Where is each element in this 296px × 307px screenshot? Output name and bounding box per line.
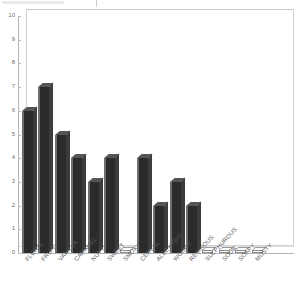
y-axis-tick-label: 8 (0, 59, 15, 66)
bar[interactable] (22, 111, 33, 253)
y-axis-tick-label: 4 (0, 154, 15, 161)
bar-side-face (99, 177, 103, 253)
bar-side-face (181, 177, 185, 253)
bar-group[interactable] (104, 158, 119, 253)
bar-group[interactable] (22, 111, 37, 253)
y-axis-tick-label: 3 (0, 178, 15, 185)
bar-side-face (148, 153, 152, 253)
bar[interactable] (137, 158, 148, 253)
y-axis-tick-label: 2 (0, 202, 15, 209)
bar-side-face (33, 106, 37, 253)
bar[interactable] (71, 158, 82, 253)
y-axis-tick-label: 9 (0, 36, 15, 43)
bar-group[interactable] (137, 158, 152, 253)
y-axis-tick-label: 10 (0, 12, 15, 19)
y-axis-tick-label: 5 (0, 131, 15, 138)
bar-group[interactable] (38, 87, 53, 253)
bar[interactable] (55, 135, 66, 254)
bar-side-face (49, 82, 53, 253)
bar-chart: 012345678910 FLORALFRUITYVANILLACARAMELN… (0, 0, 296, 307)
bar-side-face (66, 130, 70, 253)
y-axis-tick-label: 0 (0, 249, 15, 256)
bar-side-face (115, 153, 119, 253)
y-axis-tick-label: 1 (0, 225, 15, 232)
y-axis-tick-label: 7 (0, 83, 15, 90)
bar[interactable] (38, 87, 49, 253)
bar-group[interactable] (55, 135, 70, 254)
bar-side-face (82, 153, 86, 253)
bar[interactable] (104, 158, 115, 253)
y-axis-tick-label: 6 (0, 107, 15, 114)
